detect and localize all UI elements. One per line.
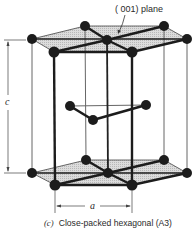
atom [102,35,112,45]
caption-prefix: (c) [44,218,54,228]
atom [141,100,151,110]
a-label: a [90,200,95,211]
caption: (c) Close-packed hexagonal (A3) [44,218,172,228]
atom [182,34,192,44]
plane-label: ( 001) plane [115,4,163,14]
atom [27,34,37,44]
caption-text: Close-packed hexagonal (A3) [59,218,172,228]
atom [88,115,98,125]
atom [81,155,91,165]
center-axis [107,40,108,173]
c-label: c [5,96,10,107]
hcp-unit-cell-diagram: ( 001) plane c a (c) Close-packed hexago… [0,0,196,230]
atom [80,21,90,31]
atom [159,155,169,165]
atom [49,47,60,58]
atom [182,168,192,178]
atom [127,180,138,191]
atom [159,21,169,31]
atom [103,168,113,178]
atom [65,101,75,111]
atom [50,180,61,191]
atom [27,168,37,178]
atom [127,47,138,58]
